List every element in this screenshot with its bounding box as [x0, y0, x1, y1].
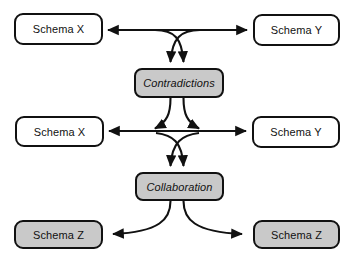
node-label: Contradictions	[143, 77, 215, 89]
node-label: Schema Z	[271, 229, 322, 241]
node-schema-z-left[interactable]: Schema Z	[14, 220, 103, 249]
edge-contradictions-out-left	[155, 98, 171, 129]
node-collaboration[interactable]: Collaboration	[135, 172, 224, 201]
edge-contradictions-out-right	[184, 98, 200, 129]
edge-to-contradictions-right	[155, 30, 184, 62]
node-label: Schema Y	[271, 24, 322, 36]
node-schema-x-mid[interactable]: Schema X	[15, 116, 104, 147]
node-contradictions[interactable]: Contradictions	[134, 68, 224, 98]
node-schema-x-top[interactable]: Schema X	[14, 13, 103, 45]
node-schema-y-mid[interactable]: Schema Y	[252, 116, 340, 148]
node-label: Schema X	[34, 126, 86, 138]
node-schema-y-top[interactable]: Schema Y	[253, 14, 340, 46]
node-label: Schema X	[33, 23, 85, 35]
node-label: Collaboration	[146, 181, 212, 193]
edge-collaboration-out-left	[113, 201, 171, 234]
edge-collaboration-out-right	[184, 201, 243, 234]
edge-to-collaboration-left	[171, 133, 200, 166]
edge-to-contradictions-left	[171, 30, 201, 62]
node-label: Schema Z	[33, 229, 84, 241]
edge-to-collaboration-right	[156, 133, 184, 166]
node-label: Schema Y	[270, 126, 321, 138]
schema-integration-diagram: Schema X Schema Y Contradictions Schema …	[0, 0, 351, 265]
node-schema-z-right[interactable]: Schema Z	[253, 220, 340, 249]
